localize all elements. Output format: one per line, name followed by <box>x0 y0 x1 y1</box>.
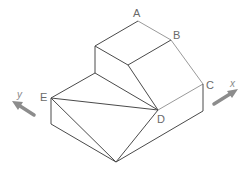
axis-label-x: x <box>229 78 236 89</box>
edge-top-inner-left <box>95 46 128 65</box>
isometric-solid-diagram: A B C D E x y <box>0 0 246 169</box>
y-axis-arrow-icon <box>12 101 34 115</box>
edge-top-inner-right <box>128 40 171 65</box>
axis-label-y: y <box>16 89 23 100</box>
point-label-c: C <box>206 79 214 91</box>
edge-step-e <box>51 73 95 98</box>
point-label-d: D <box>157 113 165 125</box>
edge-b-c <box>171 40 203 84</box>
edge-inner-d <box>128 65 158 110</box>
point-label-a: A <box>133 7 141 19</box>
edge-top-left <box>95 21 138 46</box>
edge-e-d <box>51 98 158 110</box>
edge-a-b <box>138 21 171 40</box>
edge-d-bottom <box>116 110 158 162</box>
solid-edges <box>51 21 203 162</box>
x-axis-arrow-icon <box>214 89 238 104</box>
point-label-e: E <box>40 91 47 103</box>
point-label-b: B <box>173 29 180 41</box>
edge-c-d <box>158 84 203 110</box>
